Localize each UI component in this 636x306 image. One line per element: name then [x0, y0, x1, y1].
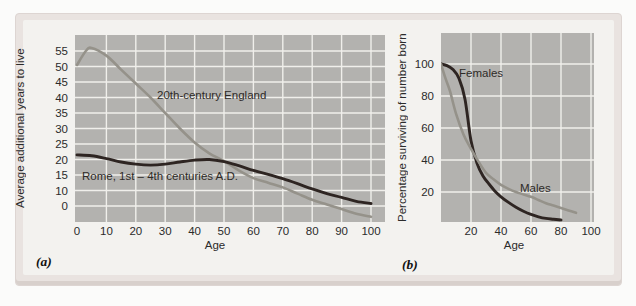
- panel-b-chart: [441, 33, 594, 222]
- y-tick-label: 80: [421, 90, 434, 102]
- y-tick-label: 45: [55, 76, 68, 88]
- panel-b-y-axis-title: Percentage surviving of number born: [396, 33, 408, 222]
- x-tick-label: 80: [306, 225, 319, 237]
- panel-a-x-axis-title: Age: [75, 239, 355, 251]
- y-tick-label: 40: [55, 92, 68, 104]
- x-tick-label: 70: [276, 225, 289, 237]
- panel-a-chart: [75, 35, 385, 222]
- panel-b-label: (b): [402, 257, 418, 273]
- panel-b-plot-area: [441, 33, 594, 222]
- panel-a-label: (a): [36, 254, 52, 270]
- x-tick-label: 80: [555, 225, 568, 237]
- y-tick-label: 60: [421, 122, 434, 134]
- panel-b-y-tick-labels: 10080604020: [408, 33, 434, 222]
- y-tick-label: 55: [55, 45, 68, 57]
- y-tick-label: 0: [62, 200, 68, 212]
- x-tick-label: 100: [581, 225, 600, 237]
- panel-b-x-tick-labels: 20406080100: [441, 225, 594, 239]
- x-tick-label: 40: [495, 225, 508, 237]
- y-tick-label: 40: [421, 154, 434, 166]
- panel-a-y-axis-title: Average additional years to live: [14, 35, 26, 222]
- x-tick-label: 20: [465, 225, 478, 237]
- series-label-females: Females: [459, 67, 503, 79]
- series-label-20th-century-england: 20th-century England: [157, 89, 266, 101]
- series-label-males: Males: [520, 182, 551, 194]
- x-tick-label: 0: [74, 225, 80, 237]
- x-tick-label: 100: [361, 225, 380, 237]
- series-label-rome: Rome, 1st – 4th centuries A.D.: [82, 170, 238, 182]
- y-tick-label: 50: [55, 61, 68, 73]
- y-tick-label: 35: [55, 107, 68, 119]
- y-tick-label: 100: [415, 58, 434, 70]
- x-tick-label: 60: [525, 225, 538, 237]
- figure-canvas: Average additional years to live Percent…: [0, 0, 636, 306]
- x-tick-label: 10: [100, 225, 113, 237]
- x-tick-label: 60: [247, 225, 260, 237]
- y-tick-label: 25: [55, 138, 68, 150]
- x-tick-label: 30: [159, 225, 172, 237]
- x-tick-label: 20: [129, 225, 142, 237]
- panel-a-y-tick-labels: 555045403530252015100: [42, 35, 68, 222]
- x-tick-label: 90: [335, 225, 348, 237]
- y-tick-label: 15: [55, 169, 68, 181]
- x-tick-label: 50: [218, 225, 231, 237]
- y-tick-label: 10: [55, 185, 68, 197]
- panel-b-x-axis-title: Age: [441, 239, 587, 251]
- y-tick-label: 20: [55, 154, 68, 166]
- x-tick-label: 40: [188, 225, 201, 237]
- panel-a-x-tick-labels: 0102030405060708090100: [75, 225, 385, 239]
- y-tick-label: 20: [421, 186, 434, 198]
- y-tick-label: 30: [55, 123, 68, 135]
- panel-a-plot-area: [75, 35, 385, 222]
